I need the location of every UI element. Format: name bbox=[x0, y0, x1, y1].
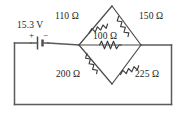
wire-left-to-bottom bbox=[79, 45, 112, 84]
zigzag-bottom-left bbox=[86, 53, 98, 73]
resistor-bridge-label: 100 Ω bbox=[93, 32, 117, 42]
resistor-bottom-right-label: 225 Ω bbox=[135, 70, 159, 80]
resistor-top-left-label: 110 Ω bbox=[55, 12, 79, 22]
battery-plus-sign: + bbox=[29, 31, 34, 40]
resistor-top-right-label: 150 Ω bbox=[139, 12, 163, 22]
resistor-bottom-left-coil bbox=[86, 53, 98, 73]
resistor-bottom-left-label: 200 Ω bbox=[56, 70, 80, 80]
wire-battery-to-bridge bbox=[48, 43, 79, 45]
circuit-diagram: 15.3 V + − 110 Ω 150 Ω 100 Ω 200 Ω 225 Ω bbox=[0, 0, 183, 117]
battery-minus-sign: − bbox=[43, 31, 48, 40]
